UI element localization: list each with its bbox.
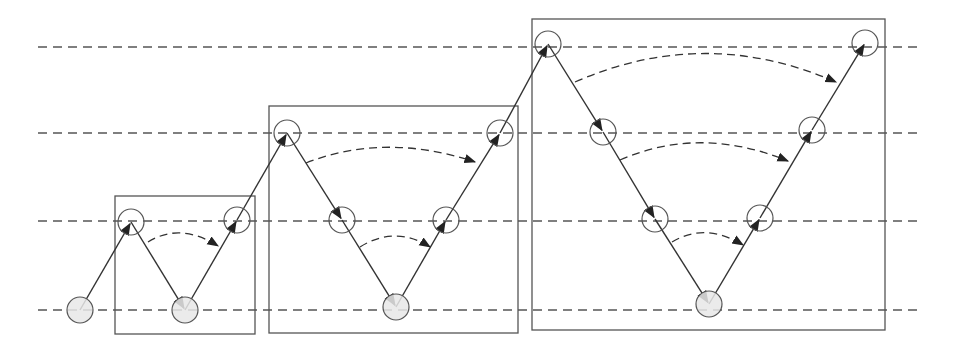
edge-arrow [500, 46, 547, 133]
dashed-arc-arrows [148, 54, 836, 248]
zigzag-edges [80, 44, 864, 310]
edge-arrow [131, 222, 184, 308]
edge-arrow [603, 132, 654, 217]
dashed-arc-arrow [306, 147, 475, 163]
edge-arrow [287, 133, 341, 218]
dashed-arc-arrow [672, 233, 743, 245]
dashed-arc-arrow [360, 236, 430, 247]
base-node-circle [383, 294, 409, 320]
base-node-circle [172, 297, 198, 323]
base-node-circle [67, 297, 93, 323]
edge-arrow [812, 45, 864, 130]
edge-arrow [446, 135, 499, 220]
node-circle [852, 30, 878, 56]
edge-arrow [548, 44, 602, 130]
edge-arrow [342, 220, 395, 305]
edge-arrow [396, 222, 445, 307]
box-3 [532, 19, 885, 330]
edge-arrow [760, 132, 811, 218]
edge-arrow [237, 135, 286, 220]
edge-arrow [655, 219, 708, 302]
edge-arrow [709, 220, 759, 304]
dashed-arc-arrow [620, 143, 788, 161]
dashed-arc-arrow [575, 54, 836, 83]
group-boxes [115, 19, 885, 334]
level-dashed-lines [38, 47, 918, 310]
dashed-arc-arrow [148, 233, 218, 246]
edge-arrow [80, 224, 130, 310]
zigzag-diagram [0, 0, 955, 350]
base-node-circle [696, 291, 722, 317]
